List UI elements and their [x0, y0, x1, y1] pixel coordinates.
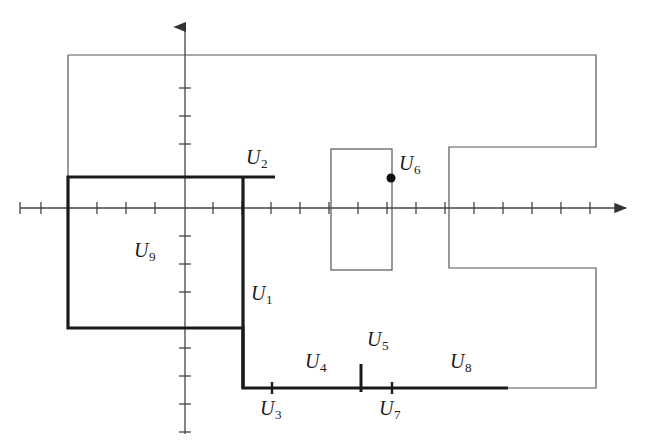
label-u8-base: U: [450, 350, 464, 372]
figure-canvas: U1 U2 U3 U4 U5 U6 U7 U8 U9: [0, 0, 652, 448]
inner-thin-box: [331, 149, 392, 270]
label-u9-base: U: [134, 239, 148, 261]
label-u7: U7: [379, 398, 401, 421]
label-u5: U5: [367, 329, 389, 352]
label-u1-base: U: [251, 282, 265, 304]
outer-thin-region: [68, 55, 596, 388]
label-u7-sub: 7: [394, 407, 401, 422]
label-u9: U9: [134, 240, 156, 263]
label-u9-sub: 9: [149, 249, 156, 264]
label-u6-base: U: [399, 152, 413, 174]
label-u2-base: U: [246, 146, 260, 168]
label-u7-base: U: [379, 397, 393, 419]
label-u8: U8: [450, 351, 472, 374]
label-u1: U1: [251, 283, 273, 306]
label-u6: U6: [399, 153, 421, 176]
label-u4-sub: 4: [320, 360, 327, 375]
diagram-svg: [0, 0, 652, 448]
label-u3-sub: 3: [275, 407, 282, 422]
label-u2-sub: 2: [261, 156, 268, 171]
label-u6-sub: 6: [414, 162, 421, 177]
label-u8-sub: 8: [465, 360, 472, 375]
label-u4-base: U: [305, 350, 319, 372]
label-u3: U3: [260, 398, 282, 421]
u6-point-marker: [387, 174, 396, 183]
label-u3-base: U: [260, 397, 274, 419]
label-u5-base: U: [367, 328, 381, 350]
label-u2: U2: [246, 147, 268, 170]
label-u5-sub: 5: [382, 338, 389, 353]
label-u4: U4: [305, 351, 327, 374]
label-u1-sub: 1: [266, 292, 273, 307]
